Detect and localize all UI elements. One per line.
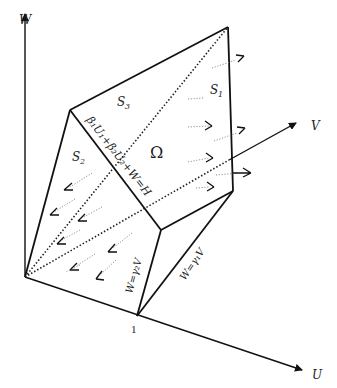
u-axis-label: U	[312, 368, 323, 382]
svg-text:2: 2	[79, 157, 85, 166]
inflow-arrows-s2	[50, 173, 132, 280]
unit-tick-label: 1	[131, 323, 137, 335]
region-s2-label: S 2	[72, 150, 85, 166]
omega-label: Ω	[150, 143, 163, 162]
plane-gamma1-equation: W=γ₁V	[178, 245, 208, 282]
svg-text:S: S	[72, 150, 80, 164]
polyhedron-diagram: W U V 1 S 1 S 2 S 3 Ω β₁U₁+β₂U₂+W=H W=γ₂…	[0, 0, 337, 388]
region-s1-label: S 1	[210, 83, 223, 99]
w-axis-label: W	[19, 13, 33, 27]
u-axis	[25, 277, 302, 370]
plane-gamma2-equation: W=γ₂V	[123, 255, 144, 294]
svg-text:1: 1	[218, 90, 223, 99]
hidden-edges	[25, 27, 228, 277]
svg-text:S: S	[210, 83, 218, 97]
svg-text:S: S	[117, 95, 125, 109]
region-s3-label: S 3	[117, 95, 130, 111]
outflow-arrows-s1	[188, 55, 251, 191]
hyperplane-equation: β₁U₁+β₂U₂+W=H	[83, 113, 154, 199]
svg-text:3: 3	[125, 102, 130, 111]
v-axis-label: V	[311, 119, 321, 133]
diagram-canvas: W U V 1 S 1 S 2 S 3 Ω β₁U₁+β₂U₂+W=H W=γ₂…	[0, 0, 337, 388]
